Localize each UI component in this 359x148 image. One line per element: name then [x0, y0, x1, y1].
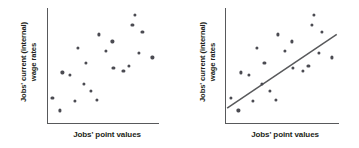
data-point — [310, 24, 313, 27]
data-point — [69, 73, 72, 76]
data-point — [61, 71, 64, 74]
trend-line — [226, 8, 339, 123]
data-point — [268, 89, 271, 92]
data-point — [307, 64, 310, 67]
data-point — [283, 49, 286, 52]
plot-area-left — [47, 8, 159, 124]
data-point — [131, 24, 134, 27]
data-point — [90, 89, 93, 92]
data-point — [112, 66, 115, 69]
y-axis-label-left: Jobs' current (internal) wage rates — [12, 2, 46, 122]
data-point — [127, 64, 130, 67]
data-point — [82, 82, 85, 85]
data-point — [237, 109, 240, 112]
data-point — [104, 49, 107, 52]
data-point — [59, 109, 62, 112]
data-point — [229, 96, 232, 99]
data-point — [320, 31, 323, 34]
data-point — [141, 31, 144, 34]
data-point — [274, 98, 277, 101]
data-point — [263, 62, 266, 65]
data-point — [255, 47, 258, 50]
data-point — [133, 13, 136, 16]
data-point — [313, 13, 316, 16]
data-point — [122, 70, 125, 73]
data-point — [84, 62, 87, 65]
x-axis-label-left: Jobs' point values — [47, 130, 167, 139]
scatter-panel-left: Jobs' current (internal) wage rates Jobs… — [0, 0, 179, 148]
data-point — [290, 40, 293, 43]
plot-area-right — [225, 8, 339, 124]
data-point — [276, 33, 279, 36]
data-point — [252, 100, 255, 103]
data-point — [239, 71, 242, 74]
data-point — [97, 33, 100, 36]
data-point — [261, 82, 264, 85]
data-point — [51, 96, 54, 99]
data-point — [317, 51, 320, 54]
data-point — [151, 56, 154, 59]
scatter-panel-right: Jobs' current (internal) wage rates Jobs… — [180, 0, 359, 148]
data-point — [301, 70, 304, 73]
x-axis-label-right: Jobs' point values — [225, 130, 345, 139]
data-point — [291, 66, 294, 69]
data-point — [331, 56, 334, 59]
data-point — [76, 47, 79, 50]
data-point — [73, 100, 76, 103]
data-point — [95, 98, 98, 101]
y-axis-label-right: Jobs' current (internal) wage rates — [191, 2, 225, 122]
data-point — [247, 73, 250, 76]
data-point — [111, 40, 114, 43]
two-scatterplot-figure: Jobs' current (internal) wage rates Jobs… — [0, 0, 359, 148]
data-point — [137, 51, 140, 54]
